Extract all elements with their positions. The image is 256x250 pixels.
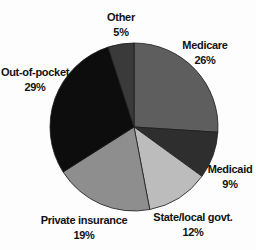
pie-chart-svg: Medicare 26% Medicaid 9% State/local gov… xyxy=(0,0,256,250)
slices xyxy=(50,43,218,211)
label-medicaid-name: Medicaid xyxy=(208,163,253,175)
label-medicare-value: 26% xyxy=(194,54,216,66)
label-medicaid-value: 9% xyxy=(222,178,238,190)
pie-chart: Medicare 26% Medicaid 9% State/local gov… xyxy=(0,0,256,250)
label-out-of-pocket-name: Out-of-pocket xyxy=(1,66,70,78)
label-other-value: 5% xyxy=(113,26,129,38)
label-state-local-value: 12% xyxy=(182,226,204,238)
label-out-of-pocket-value: 29% xyxy=(24,81,46,93)
label-other-name: Other xyxy=(107,11,136,23)
label-private-insurance-name: Private insurance xyxy=(41,214,128,226)
label-private-insurance-value: 19% xyxy=(73,229,95,241)
label-state-local-name: State/local govt. xyxy=(153,211,232,223)
label-medicare-name: Medicare xyxy=(182,39,227,51)
